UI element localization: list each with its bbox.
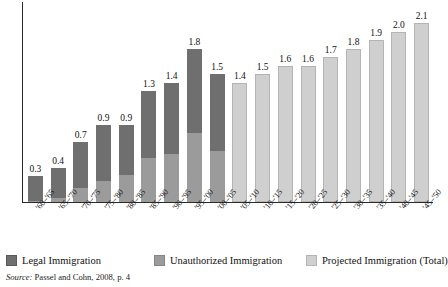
bar-value-label: 1.6 — [292, 54, 325, 64]
chart-legend: Legal ImmigrationUnauthorized Immigratio… — [6, 253, 433, 268]
legend-item[interactable]: Legal Immigration — [6, 253, 101, 268]
bar-value-label: 1.7 — [314, 45, 347, 55]
bar[interactable] — [369, 40, 384, 202]
bar-value-label: 1.3 — [132, 79, 165, 89]
bar[interactable] — [278, 66, 293, 202]
bar-column[interactable]: 1.3 — [141, 2, 156, 202]
legend-swatch-icon — [154, 255, 165, 266]
bar[interactable] — [346, 49, 361, 202]
bar-column[interactable]: 1.7 — [323, 2, 338, 202]
bar-column[interactable]: 2.1 — [414, 2, 429, 202]
x-axis-tick-labels: '60–'65'65–'70'70–'75'75–'80'80–'85'85–'… — [22, 204, 433, 248]
bar-segment-legal — [164, 83, 179, 154]
bar[interactable] — [164, 83, 179, 202]
bar-value-label: 1.5 — [246, 62, 279, 72]
bar-column[interactable]: 1.5 — [255, 2, 270, 202]
bar[interactable] — [210, 74, 225, 202]
bar-segment-legal — [210, 74, 225, 151]
legend-item[interactable]: Projected Immigration (Total) — [306, 253, 448, 268]
bar[interactable] — [301, 66, 316, 202]
bar-value-label: 2.1 — [405, 11, 438, 21]
bar-column[interactable]: 2.0 — [391, 2, 406, 202]
bar-segment-legal — [96, 125, 111, 180]
bar-value-label: 1.4 — [223, 71, 256, 81]
bar-segment-legal — [119, 125, 134, 174]
bar-column[interactable]: 1.4 — [232, 2, 247, 202]
legend-label: Unauthorized Immigration — [170, 255, 282, 267]
bar[interactable] — [232, 83, 247, 202]
bar-column[interactable]: 0.9 — [96, 2, 111, 202]
bar-segment-projected — [391, 32, 406, 202]
bar[interactable] — [323, 57, 338, 202]
bar-column[interactable]: 1.9 — [369, 2, 384, 202]
source-prefix: Source: — [6, 272, 32, 282]
bar-segment-legal — [73, 142, 88, 187]
bar-column[interactable]: 1.4 — [164, 2, 179, 202]
bar-segment-projected — [323, 57, 338, 202]
legend-swatch-icon — [6, 255, 17, 266]
bar-column[interactable]: 0.3 — [28, 2, 43, 202]
bar[interactable] — [141, 91, 156, 202]
bar[interactable] — [391, 32, 406, 202]
bar-segment-projected — [346, 49, 361, 202]
bar-column[interactable]: 1.5 — [210, 2, 225, 202]
bar-value-label: 0.4 — [42, 156, 75, 166]
bar-segment-projected — [232, 83, 247, 202]
bar-group: 0.30.40.70.90.91.31.41.81.51.41.51.61.61… — [24, 2, 433, 202]
legend-label: Projected Immigration (Total) — [322, 255, 448, 267]
legend-swatch-icon — [306, 255, 317, 266]
bar-value-label: 1.9 — [360, 28, 393, 38]
bar-column[interactable]: 0.4 — [51, 2, 66, 202]
bar-value-label: 0.3 — [19, 164, 52, 174]
legend-label: Legal Immigration — [22, 255, 101, 267]
bar-value-label: 1.8 — [178, 37, 211, 47]
bar-column[interactable]: 0.7 — [73, 2, 88, 202]
bar-column[interactable]: 1.8 — [187, 2, 202, 202]
bar[interactable] — [255, 74, 270, 202]
bar-value-label: 1.8 — [337, 37, 370, 47]
bar-segment-projected — [414, 23, 429, 202]
bar-column[interactable]: 0.9 — [119, 2, 134, 202]
bar-value-label: 0.7 — [64, 130, 97, 140]
source-text: Passel and Cohn, 2008, p. 4 — [32, 272, 130, 282]
source-note: Source: Passel and Cohn, 2008, p. 4 — [6, 272, 130, 282]
bar-segment-projected — [369, 40, 384, 202]
bar-column[interactable]: 1.6 — [278, 2, 293, 202]
bar-segment-projected — [278, 66, 293, 202]
bar-value-label: 1.4 — [155, 71, 188, 81]
bar-value-label: 0.9 — [110, 113, 143, 123]
bar-segment-legal — [141, 91, 156, 157]
bar-segment-projected — [255, 74, 270, 202]
bar[interactable] — [414, 23, 429, 202]
bar-value-label: 2.0 — [382, 20, 415, 30]
bar-segment-projected — [301, 66, 316, 202]
chart-plot-area: 0.30.40.70.90.91.31.41.81.51.41.51.61.61… — [22, 2, 433, 203]
bar-column[interactable]: 1.6 — [301, 2, 316, 202]
legend-item[interactable]: Unauthorized Immigration — [154, 253, 282, 268]
